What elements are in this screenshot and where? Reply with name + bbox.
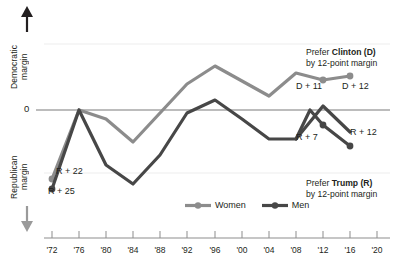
x-tick-label-84: '84 bbox=[120, 245, 146, 255]
legend: Women Men bbox=[185, 200, 309, 210]
clinton-annotation-line2: by 12-point margin bbox=[306, 58, 377, 68]
data-label-women-1972: R + 22 bbox=[56, 166, 83, 176]
legend-swatch-men bbox=[262, 201, 288, 210]
x-tick-label-80: '80 bbox=[93, 245, 119, 255]
trump-annotation-line2: by 12-point margin bbox=[306, 189, 377, 199]
legend-swatch-women bbox=[185, 201, 211, 210]
clinton-annotation-prefix: Prefer bbox=[306, 47, 332, 57]
trump-annotation-prefix: Prefer bbox=[306, 178, 332, 188]
x-tick-label-16: '16 bbox=[337, 245, 363, 255]
down-arrow-icon bbox=[21, 206, 33, 232]
legend-label-men: Men bbox=[292, 200, 310, 210]
data-label-men-1972: R + 25 bbox=[48, 186, 75, 196]
clinton-annotation-bold: Clinton (D) bbox=[332, 47, 376, 57]
x-tick-label-72: '72 bbox=[39, 245, 65, 255]
data-point-women-2016 bbox=[347, 73, 354, 80]
x-tick-label-96: '96 bbox=[202, 245, 228, 255]
x-tick-label-88: '88 bbox=[147, 245, 173, 255]
trump-annotation: Prefer Trump (R) by 12-point margin bbox=[306, 178, 377, 199]
x-tick-label-12: '12 bbox=[310, 245, 336, 255]
legend-item-women[interactable]: Women bbox=[185, 200, 246, 210]
clinton-annotation: Prefer Clinton (D) by 12-point margin bbox=[306, 47, 377, 68]
data-label-men-2012: R + 7 bbox=[296, 132, 318, 142]
x-tick-label-92: '92 bbox=[174, 245, 200, 255]
x-tick-label-00: '00 bbox=[229, 245, 255, 255]
gender-gap-line-chart: Democratic margin Republican margin 0 bbox=[0, 0, 399, 264]
x-tick-label-04: '04 bbox=[256, 245, 282, 255]
legend-label-women: Women bbox=[215, 200, 246, 210]
x-tick-label-76: '76 bbox=[66, 245, 92, 255]
trump-annotation-bold: Trump (R) bbox=[332, 178, 373, 188]
legend-item-men[interactable]: Men bbox=[262, 200, 310, 210]
data-label-women-2012: D + 11 bbox=[296, 81, 322, 91]
x-tick-label-08: '08 bbox=[283, 245, 309, 255]
series-line-men bbox=[52, 100, 350, 189]
x-axis bbox=[44, 231, 390, 238]
plot-area bbox=[0, 0, 399, 264]
up-arrow-icon bbox=[21, 6, 33, 32]
data-label-women-2016: D + 12 bbox=[342, 81, 369, 91]
x-tick-label-20: '20 bbox=[364, 245, 390, 255]
data-label-men-2016: R + 12 bbox=[350, 127, 377, 137]
